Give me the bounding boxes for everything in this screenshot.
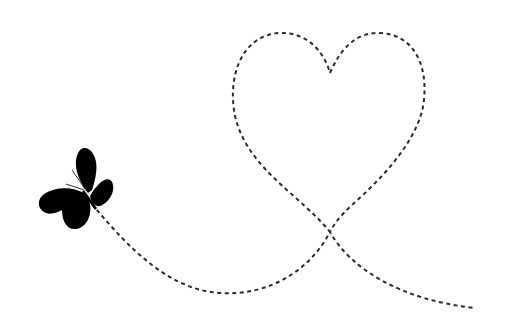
illustration-svg [0, 0, 507, 333]
dashed-flight-path [92, 33, 475, 308]
illustration-canvas: Butterfly flight path forming a heart [0, 0, 507, 333]
